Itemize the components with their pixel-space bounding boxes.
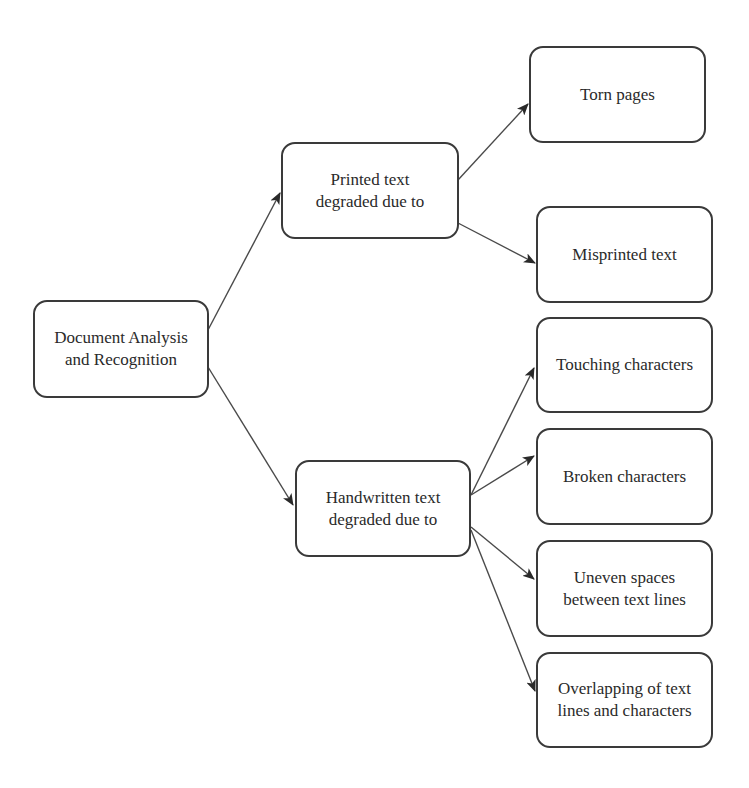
node-torn-pages: Torn pages	[529, 46, 706, 143]
edge-root-to-handwritten	[208, 367, 293, 505]
node-touching-characters: Touching characters	[536, 317, 713, 413]
node-handwritten-text-degraded: Handwritten text degraded due to	[295, 460, 471, 557]
edge-printed-to-misprinted	[458, 223, 535, 263]
node-uneven-spaces: Uneven spaces between text lines	[536, 540, 713, 637]
node-misprinted-text: Misprinted text	[536, 206, 713, 303]
node-document-analysis-and-recognition: Document Analysis and Recognition	[33, 300, 209, 398]
node-label: Document Analysis and Recognition	[54, 327, 188, 371]
node-label: Torn pages	[580, 84, 655, 106]
node-printed-text-degraded: Printed text degraded due to	[281, 142, 459, 239]
node-label: Overlapping of text lines and characters	[557, 678, 691, 722]
node-label: Printed text degraded due to	[316, 169, 425, 213]
node-overlapping-text-lines: Overlapping of text lines and characters	[536, 652, 713, 748]
node-broken-characters: Broken characters	[536, 428, 713, 525]
node-label: Misprinted text	[572, 244, 676, 266]
edge-printed-to-torn	[458, 104, 528, 180]
node-label: Handwritten text degraded due to	[326, 487, 441, 531]
node-label: Broken characters	[563, 466, 686, 488]
diagram-canvas: Document Analysis and Recognition Printe…	[0, 0, 749, 788]
node-label: Touching characters	[556, 354, 693, 376]
node-label: Uneven spaces between text lines	[563, 567, 686, 611]
edge-root-to-printed	[208, 193, 280, 330]
